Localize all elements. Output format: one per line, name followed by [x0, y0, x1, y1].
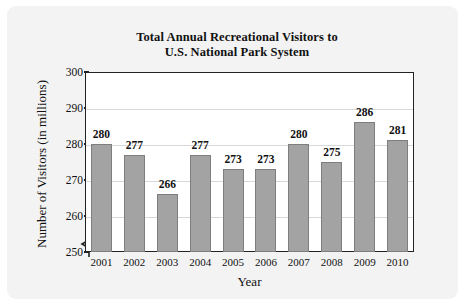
- bar-value-label: 280: [279, 128, 319, 140]
- bar-2006: [255, 169, 276, 252]
- y-tick-label: 270: [53, 174, 83, 186]
- y-tick-label: 260: [53, 210, 83, 222]
- bar-2009: [354, 122, 375, 252]
- bar-2005: [223, 169, 244, 252]
- bar-2001: [91, 144, 112, 252]
- x-axis-title: Year: [85, 274, 414, 290]
- y-axis-title: Number of Visitors (in millions): [34, 74, 50, 254]
- y-tick-label: 280: [53, 138, 83, 150]
- y-tick-label: 300: [53, 66, 83, 78]
- bar-2007: [288, 144, 309, 252]
- bar-2010: [387, 140, 408, 252]
- chart-title: Total Annual Recreational Visitors to U.…: [67, 30, 407, 59]
- bar-value-label: 266: [147, 178, 187, 190]
- chart-card: Total Annual Recreational Visitors to U.…: [7, 6, 458, 299]
- bar-value-label: 273: [246, 153, 286, 165]
- chart-title-line-2: U.S. National Park System: [67, 45, 407, 60]
- y-axis-ticks: 250260270280290300: [49, 72, 83, 252]
- chart-title-line-1: Total Annual Recreational Visitors to: [136, 30, 338, 44]
- bar-value-label: 281: [378, 124, 418, 136]
- x-tick-label-2010: 2010: [378, 256, 418, 268]
- bar-2003: [157, 194, 178, 252]
- y-tick-label: 290: [53, 102, 83, 114]
- bar-value-label: 277: [180, 139, 220, 151]
- bar-2004: [190, 155, 211, 252]
- bar-2002: [124, 155, 145, 252]
- bars-layer: 280277266277273273280275286281: [85, 72, 414, 252]
- bar-2008: [321, 162, 342, 252]
- bar-value-label: 277: [114, 139, 154, 151]
- bar-value-label: 275: [312, 146, 352, 158]
- bar-value-label: 286: [345, 106, 385, 118]
